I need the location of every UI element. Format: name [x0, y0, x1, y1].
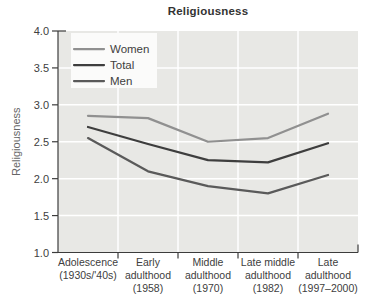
x-category-label: Middle [193, 256, 224, 268]
y-tick-label: 3.5 [34, 62, 49, 74]
legend-label-men: Men [110, 75, 132, 87]
x-category-label: adulthood [305, 269, 351, 281]
plot-area: 4.03.53.02.52.01.51.0Adolescence(1930s/'… [0, 0, 375, 307]
x-category-label: (1958) [133, 282, 163, 294]
religiousness-line-chart-figure: Religiousness 4.03.53.02.52.01.51.0Adole… [0, 0, 375, 307]
y-axis-title: Religiousness [10, 107, 22, 176]
x-category-label: Late [318, 256, 339, 268]
legend-label-total: Total [110, 59, 134, 71]
chart-title: Religiousness [58, 5, 358, 17]
x-category-label: (1982) [253, 282, 283, 294]
x-category-label: adulthood [245, 269, 291, 281]
y-tick-label: 1.0 [34, 247, 49, 259]
x-category-label: adulthood [185, 269, 231, 281]
y-tick-label: 2.5 [34, 136, 49, 148]
x-category-label: Adolescence [58, 256, 118, 268]
y-tick-label: 4.0 [34, 25, 49, 37]
x-category-label: Late middle [241, 256, 295, 268]
y-tick-label: 1.5 [34, 210, 49, 222]
legend-label-women: Women [110, 43, 149, 55]
x-category-label: adulthood [125, 269, 171, 281]
y-tick-label: 3.0 [34, 99, 49, 111]
x-category-label: (1970) [193, 282, 223, 294]
y-tick-label: 2.0 [34, 173, 49, 185]
x-category-label: (1930s/'40s) [59, 269, 116, 281]
x-category-label: Early [136, 256, 161, 268]
x-category-label: (1997–2000) [298, 282, 358, 294]
